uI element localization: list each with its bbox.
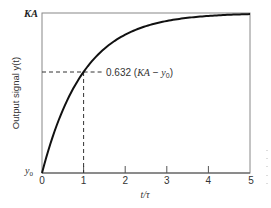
x-tick-1: 1: [81, 175, 87, 186]
x-ticks: [84, 166, 209, 173]
x-tick-3: 3: [164, 175, 170, 186]
edge-dots: [266, 150, 268, 184]
x-tick-labels: 0 1 2 3 4 5: [39, 175, 254, 186]
x-tick-5: 5: [248, 175, 254, 186]
x-tick-0: 0: [39, 175, 45, 186]
x-axis-label: t/τ: [140, 189, 150, 200]
step-response-chart: 0 1 2 3 4 5 t/τ Output signal y(t) KA y0…: [0, 0, 271, 208]
plot-frame: [42, 13, 250, 173]
x-tick-2: 2: [122, 175, 128, 186]
y-axis-label: Output signal y(t): [10, 57, 21, 129]
annotation-0632: 0.632 (KA − y0): [106, 67, 173, 79]
y-label-ka: KA: [23, 8, 38, 19]
response-curve: [42, 14, 250, 173]
x-tick-4: 4: [206, 175, 212, 186]
y-label-y0: y0: [24, 165, 33, 178]
